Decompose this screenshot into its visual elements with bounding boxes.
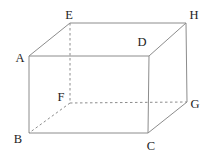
cuboid-figure: ABCDEFGH — [0, 0, 210, 159]
vertex-label-B: B — [14, 132, 22, 146]
edge-CD — [148, 56, 149, 133]
edge-AE — [29, 23, 70, 56]
cuboid-diagram: ABCDEFGH — [0, 0, 210, 159]
edge-HG — [186, 23, 187, 102]
vertex-label-H: H — [189, 8, 198, 22]
edge-FG-hidden — [70, 102, 187, 103]
edge-FB-hidden — [29, 103, 70, 133]
vertex-label-F: F — [58, 90, 65, 104]
edge-DH — [149, 23, 186, 56]
vertex-label-E: E — [65, 8, 73, 22]
vertex-label-A: A — [15, 51, 24, 65]
edge-CG — [148, 102, 187, 133]
vertex-label-G: G — [190, 97, 199, 111]
vertex-label-C: C — [147, 139, 155, 153]
vertex-label-D: D — [137, 35, 146, 49]
